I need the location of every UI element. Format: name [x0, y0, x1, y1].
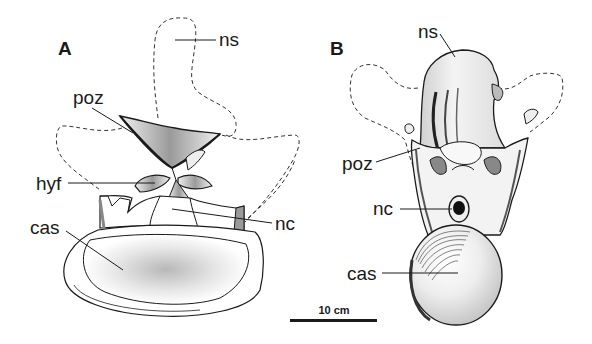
label-cas-a: cas: [30, 217, 60, 238]
scale-bar-line: [290, 319, 377, 322]
panel-label-a: A: [58, 38, 72, 59]
panel-label-b: B: [330, 38, 344, 59]
hyposphene-right: [178, 175, 212, 189]
left-process-tip: [405, 124, 414, 134]
right-process-tip: [524, 109, 538, 124]
label-nc-a: nc: [275, 213, 295, 234]
scale-bar: 10 cm: [290, 304, 377, 322]
label-poz-a: poz: [73, 87, 104, 108]
panel-b: B ns poz nc cas: [330, 21, 563, 325]
panel-a: A ns poz hyf nc cas: [30, 18, 299, 316]
label-ns-b: ns: [418, 21, 438, 42]
postzygapophysis-a: [120, 116, 220, 168]
spine-bump: [492, 84, 503, 100]
scale-bar-label: 10 cm: [318, 304, 349, 316]
label-ns-a: ns: [219, 29, 239, 50]
hyposphene-left: [135, 175, 170, 192]
label-poz-b: poz: [342, 153, 373, 174]
right-transverse-outline-b: [498, 73, 563, 132]
vertebra-figure: A ns poz hyf nc cas: [0, 0, 592, 344]
label-nc-b: nc: [373, 198, 393, 219]
left-transverse-outline: [56, 126, 122, 190]
label-hyf-a: hyf: [36, 173, 62, 194]
label-cas-b: cas: [347, 263, 377, 284]
neural-canal-hole-b: [453, 201, 465, 215]
neural-spine-b: [420, 50, 505, 148]
